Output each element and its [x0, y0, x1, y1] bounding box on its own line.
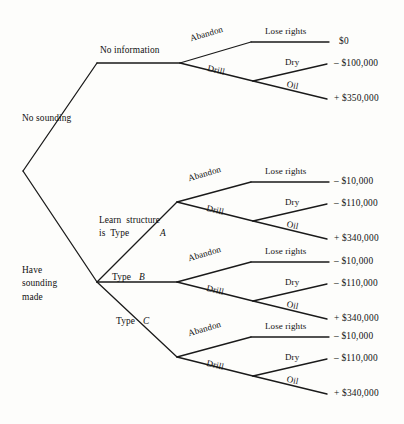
edge-typeb-abandon: [177, 262, 251, 282]
payoff-typea-oil: + $340,000: [334, 233, 379, 245]
label-no-information: No information: [100, 45, 159, 57]
branch-label-typeb-oil: Oil: [286, 299, 300, 312]
label-have-sounding-made: Have sounding made: [22, 264, 57, 304]
branch-label-typeb-dry: Dry: [285, 277, 299, 288]
label-learn-structure-type-a: Learn structure is Type: [99, 214, 160, 241]
payoff-typeb-abandon: – $10,000: [334, 256, 373, 268]
branch-label-noinfo-lose-rights: Lose rights: [265, 26, 306, 37]
payoff-typeb-dry: – $110,000: [334, 278, 378, 290]
branch-label-typec-oil: Oil: [286, 374, 300, 387]
label-type-c-letter: C: [143, 316, 149, 328]
payoff-typeb-oil: + $340,000: [334, 313, 379, 325]
branch-label-typea-oil: Oil: [286, 219, 300, 232]
payoff-typec-abandon: – $10,000: [334, 331, 373, 343]
payoff-typec-dry: – $110,000: [334, 353, 378, 365]
edge-sounding-type-c: [97, 282, 177, 357]
payoff-typea-abandon: – $10,000: [334, 176, 373, 188]
branch-label-typeb-lose-rights: Lose rights: [265, 246, 306, 257]
decision-tree-canvas: No sounding Have sounding made No inform…: [0, 0, 404, 424]
branch-label-typea-dry: Dry: [285, 197, 299, 208]
edge-noinfo-abandon: [180, 42, 251, 63]
branch-label-typec-dry: Dry: [285, 352, 299, 363]
branch-label-noinfo-dry: Dry: [285, 57, 299, 68]
label-type-b-prefix: Type: [112, 272, 131, 284]
payoff-typec-oil: + $340,000: [334, 388, 379, 400]
payoff-noinfo-oil: + $350,000: [334, 93, 379, 105]
label-type-c-prefix: Type: [116, 316, 135, 328]
payoff-noinfo-abandon: $0: [339, 36, 349, 48]
label-type-a-letter: A: [160, 228, 166, 240]
edge-typec-abandon: [177, 337, 251, 357]
branch-label-typec-lose-rights: Lose rights: [265, 321, 306, 332]
branch-label-typea-lose-rights: Lose rights: [265, 166, 306, 177]
label-type-b-letter: B: [139, 272, 145, 284]
branch-label-noinfo-oil: Oil: [286, 79, 300, 92]
label-no-sounding: No sounding: [22, 113, 71, 125]
payoff-noinfo-dry: – $100,000: [334, 58, 378, 70]
edge-typea-abandon: [177, 182, 251, 202]
payoff-typea-dry: – $110,000: [334, 198, 378, 210]
